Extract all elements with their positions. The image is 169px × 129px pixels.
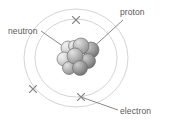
label-neutron: neutron — [8, 27, 38, 36]
atom-diagram-figure: neutron proton electron — [0, 0, 169, 129]
electron-leader-line — [81, 97, 118, 110]
label-electron: electron — [120, 107, 151, 116]
electron-marker-top — [73, 17, 80, 24]
nucleus-particle — [73, 61, 88, 76]
label-proton: proton — [120, 8, 145, 17]
nucleus-cluster — [57, 38, 99, 76]
